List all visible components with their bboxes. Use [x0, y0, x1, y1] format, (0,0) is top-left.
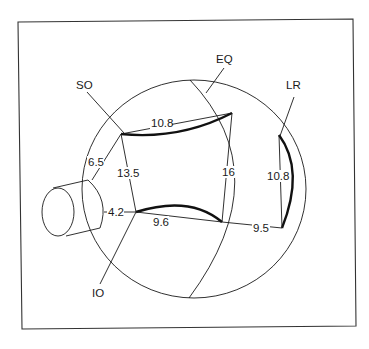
io-label: IO — [92, 287, 104, 299]
io-pointer — [100, 212, 136, 284]
io-to-nerve-label: 4.2 — [108, 206, 124, 218]
lr-pointer — [280, 97, 294, 136]
io-insertion-width-label: 9.6 — [153, 216, 169, 228]
so-insertion-width-label: 10.8 — [151, 117, 173, 129]
optic-nerve — [42, 180, 103, 236]
so-to-io-anterior-label: 16 — [222, 166, 235, 178]
optic-nerve-bottom-edge — [66, 228, 100, 236]
optic-nerve-cross-section — [42, 188, 74, 236]
lr-label: LR — [286, 79, 301, 91]
so-to-nerve-label: 6.5 — [88, 156, 104, 168]
optic-nerve-back-edge — [88, 180, 103, 228]
globe-outline — [82, 80, 306, 298]
eq-label: EQ — [216, 53, 233, 65]
equator-line — [189, 80, 235, 298]
optic-nerve-top-edge — [53, 180, 88, 188]
so-insertion-chord — [121, 113, 232, 134]
so-pointer — [87, 92, 124, 133]
so-label: SO — [76, 79, 93, 91]
lr-insertion-width-label: 10.8 — [267, 170, 289, 182]
so-to-io-label: 13.5 — [117, 167, 139, 179]
diagram-canvas: 10.8 6.5 13.5 4.2 9.6 16 9.5 10.8 SO EQ … — [0, 0, 369, 349]
eye-diagram-svg: 10.8 6.5 13.5 4.2 9.6 16 9.5 10.8 SO EQ … — [0, 0, 369, 349]
io-to-lr-label: 9.5 — [253, 222, 269, 234]
